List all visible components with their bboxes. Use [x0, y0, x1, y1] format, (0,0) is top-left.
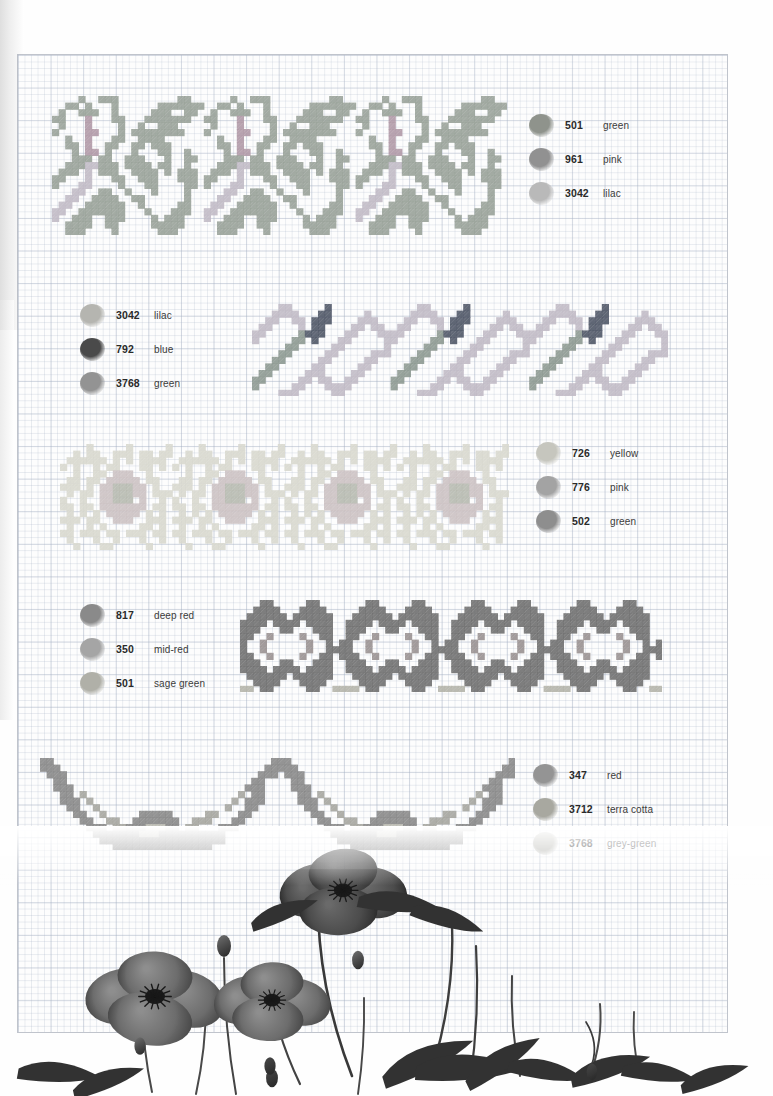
legend-row: 347red [533, 758, 656, 792]
page-root: 501green961pink3042lilac 3042lilac792blu… [0, 0, 773, 1096]
thread-swatch-icon [80, 638, 105, 661]
thread-color-name: green [154, 378, 180, 389]
thread-color-name: green [603, 120, 629, 131]
thread-color-name: green [610, 516, 636, 527]
thread-code: 3768 [116, 377, 146, 389]
thread-swatch-icon [533, 798, 558, 821]
thread-legend-4: 817deep red350mid-red501sage green [80, 598, 205, 700]
thread-code: 726 [572, 447, 602, 459]
thread-color-name: lilac [603, 188, 621, 199]
legend-row: 817deep red [80, 598, 205, 632]
thread-swatch-icon [529, 114, 554, 137]
thread-code: 501 [565, 119, 595, 131]
thread-code: 347 [569, 769, 599, 781]
legend-row: 3768green [80, 366, 180, 400]
thread-color-name: mid-red [154, 644, 189, 655]
legend-row: 350mid-red [80, 632, 205, 666]
stitch-band-pale-flower [60, 444, 509, 550]
thread-color-name: deep red [154, 610, 194, 621]
thread-color-name: terra cotta [607, 804, 653, 815]
thread-code: 502 [572, 515, 602, 527]
thread-color-name: red [607, 770, 622, 781]
thread-color-name: blue [154, 344, 173, 355]
thread-swatch-icon [536, 510, 561, 533]
thread-swatch-icon [536, 442, 561, 465]
legend-row: 501sage green [80, 666, 205, 700]
thread-swatch-icon [529, 182, 554, 205]
legend-row: 961pink [529, 142, 629, 176]
legend-row: 3042lilac [80, 298, 180, 332]
stitch-chart-canvas [52, 96, 507, 235]
scan-edge-shadow-lower [0, 300, 14, 720]
thread-legend-3: 726yellow776pink502green [536, 436, 638, 538]
thread-swatch-icon [80, 604, 105, 627]
thread-color-name: pink [610, 482, 629, 493]
stitch-band-blue-zigzag [252, 304, 668, 396]
thread-legend-1: 501green961pink3042lilac [529, 108, 629, 210]
stitch-band-red-poppy-star [240, 600, 662, 692]
thread-swatch-icon [80, 338, 105, 361]
thread-swatch-icon [80, 304, 105, 327]
legend-row: 3712terra cotta [533, 792, 656, 826]
poppies-photograph [0, 826, 773, 1096]
thread-code: 961 [565, 153, 595, 165]
thread-code: 501 [116, 677, 146, 689]
thread-code: 3712 [569, 803, 599, 815]
thread-code: 3042 [565, 187, 595, 199]
legend-row: 792blue [80, 332, 180, 366]
stitch-chart-canvas [252, 304, 668, 396]
thread-swatch-icon [533, 764, 558, 787]
thread-code: 3042 [116, 309, 146, 321]
legend-row: 3042lilac [529, 176, 629, 210]
legend-row: 501green [529, 108, 629, 142]
poppy-photo-canvas [0, 826, 773, 1096]
thread-color-name: pink [603, 154, 622, 165]
thread-legend-2: 3042lilac792blue3768green [80, 298, 180, 400]
thread-code: 792 [116, 343, 146, 355]
thread-code: 776 [572, 481, 602, 493]
thread-color-name: yellow [610, 448, 638, 459]
stitch-chart-canvas [60, 444, 509, 550]
thread-color-name: sage green [154, 678, 205, 689]
stitch-band-lilac-green-sprig [52, 96, 507, 235]
thread-swatch-icon [80, 672, 105, 695]
legend-row: 502green [536, 504, 638, 538]
thread-code: 350 [116, 643, 146, 655]
thread-swatch-icon [536, 476, 561, 499]
legend-row: 776pink [536, 470, 638, 504]
legend-row: 726yellow [536, 436, 638, 470]
stitch-chart-canvas [240, 600, 662, 692]
thread-code: 817 [116, 609, 146, 621]
thread-swatch-icon [80, 372, 105, 395]
thread-swatch-icon [529, 148, 554, 171]
thread-color-name: lilac [154, 310, 172, 321]
